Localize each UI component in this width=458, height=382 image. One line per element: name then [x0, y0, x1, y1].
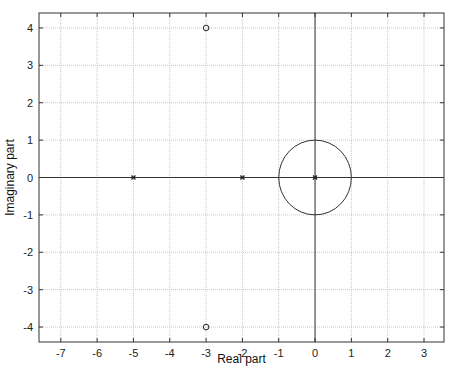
y-tick-label: 3	[27, 59, 33, 71]
y-tick-label: -2	[23, 246, 33, 258]
y-axis-label: Imaginary part	[3, 138, 17, 215]
x-tick-label: -6	[92, 347, 102, 359]
x-tick-label: 3	[421, 347, 427, 359]
x-tick-label: -3	[201, 347, 211, 359]
x-tick-label: -5	[129, 347, 139, 359]
x-axis-label: Real part	[217, 352, 266, 366]
y-tick-label: 0	[27, 172, 33, 184]
x-tick-label: -1	[274, 347, 284, 359]
x-tick-label: -4	[165, 347, 175, 359]
pole-zero-plot: -7-6-5-4-3-2-10123 -4-3-2-101234 Real pa…	[0, 0, 458, 382]
x-tick-label: 2	[385, 347, 391, 359]
x-tick-label: 0	[312, 347, 318, 359]
y-tick-label: -4	[23, 321, 33, 333]
y-tick-label: -3	[23, 284, 33, 296]
x-tick-label: 1	[348, 347, 354, 359]
x-tick-label: -7	[56, 347, 66, 359]
y-tick-label: 1	[27, 134, 33, 146]
y-tick-labels: -4-3-2-101234	[23, 22, 33, 333]
y-tick-label: 2	[27, 97, 33, 109]
y-tick-label: 4	[27, 22, 33, 34]
y-tick-label: -1	[23, 209, 33, 221]
